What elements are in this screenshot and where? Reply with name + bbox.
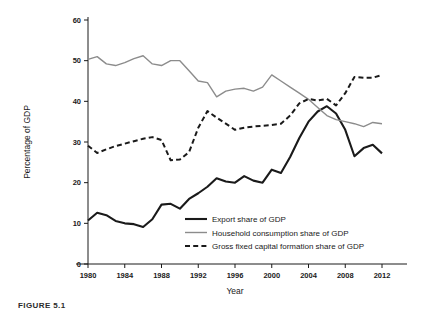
y-tick-label: 60 bbox=[73, 16, 81, 25]
x-tick-label: 1988 bbox=[153, 271, 170, 280]
x-tick-label: 1980 bbox=[80, 271, 97, 280]
y-axis-title: Percentage of GDP bbox=[22, 105, 32, 179]
y-tick-label: 20 bbox=[73, 178, 81, 187]
y-tick-label: 10 bbox=[73, 219, 81, 228]
series-line-0 bbox=[88, 106, 382, 227]
x-tick-label: 2004 bbox=[300, 271, 318, 280]
x-tick-label: 1992 bbox=[190, 271, 207, 280]
x-tick-label: 1996 bbox=[227, 271, 244, 280]
x-tick-label: 2012 bbox=[374, 271, 391, 280]
x-axis-title: Year bbox=[226, 286, 243, 296]
x-tick-label: 2008 bbox=[337, 271, 354, 280]
legend-label-1: Household consumption share of GDP bbox=[212, 229, 349, 238]
figure-caption: FIGURE 5.1 bbox=[18, 301, 66, 310]
line-chart: 0102030405060 19801984198819921996200020… bbox=[0, 0, 439, 315]
y-tick-label: 40 bbox=[73, 97, 81, 106]
x-axis: 198019841988199219962000200420082012 bbox=[76, 264, 407, 280]
legend-label-0: Export share of GDP bbox=[212, 215, 286, 224]
figure-container: 0102030405060 19801984198819921996200020… bbox=[0, 0, 439, 315]
axis-titles: YearPercentage of GDP bbox=[22, 105, 244, 296]
x-tick-label: 1984 bbox=[116, 271, 134, 280]
y-axis: 0102030405060 bbox=[73, 16, 88, 269]
legend-label-2: Gross fixed capital formation share of G… bbox=[212, 242, 364, 251]
data-series-group bbox=[88, 56, 382, 227]
y-tick-label: 30 bbox=[73, 138, 81, 147]
y-tick-label: 50 bbox=[73, 56, 81, 65]
x-tick-label: 2000 bbox=[263, 271, 280, 280]
chart-legend: Export share of GDPHousehold consumption… bbox=[185, 215, 364, 251]
